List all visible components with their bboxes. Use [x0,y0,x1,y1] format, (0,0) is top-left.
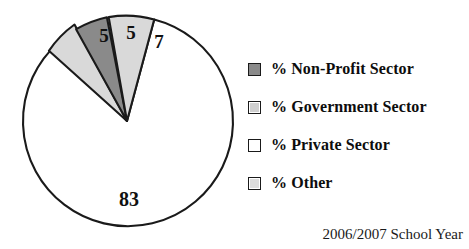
legend-label-non-profit-sector: % Non-Profit Sector [271,60,414,78]
pie-label-government-sector: 7 [154,31,164,52]
legend-swatch-other-icon [248,177,261,190]
legend-swatch-government-icon [248,101,261,114]
legend-label-other: % Other [271,174,333,192]
chart-legend: % Non-Profit Sector % Government Sector … [248,50,469,202]
pie-chart-figure: 5 5 7 83 % Non-Profit Sector % Governmen… [0,0,469,249]
pie-label-other: 5 [99,25,109,46]
legend-item-private-sector: % Private Sector [248,126,469,164]
legend-swatch-private-icon [248,139,261,152]
legend-item-government-sector: % Government Sector [248,88,469,126]
legend-item-non-profit-sector: % Non-Profit Sector [248,50,469,88]
legend-label-government-sector: % Government Sector [271,98,427,116]
pie-label-private-sector: 83 [119,188,139,210]
legend-swatch-non-profit-icon [248,63,261,76]
legend-label-private-sector: % Private Sector [271,136,390,154]
legend-item-other: % Other [248,164,469,202]
chart-caption: 2006/2007 School Year [323,226,463,243]
pie-chart-svg: 5 5 7 83 [0,0,250,249]
pie-chart-plot-area: 5 5 7 83 [0,0,250,249]
pie-label-non-profit-sector: 5 [126,22,136,43]
